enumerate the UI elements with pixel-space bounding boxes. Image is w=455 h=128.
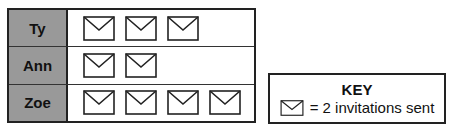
icons [68,85,254,121]
row-label: Ty [9,10,68,46]
envelope-icon [125,90,157,115]
row-ty: Ty [9,10,254,47]
envelope-icon [280,100,304,116]
key-text: = 2 invitations sent [310,99,435,116]
envelope-icon [83,16,115,41]
row-label: Ann [9,47,68,83]
key-box: KEY = 2 invitations sent [268,73,446,124]
envelope-icon [125,16,157,41]
envelope-icon [83,90,115,115]
icons [68,47,254,83]
row-zoe: Zoe [9,85,254,121]
envelope-icon [209,90,241,115]
row-ann: Ann [9,47,254,84]
key-line: = 2 invitations sent [270,99,444,116]
envelope-icon [125,53,157,78]
row-label: Zoe [9,85,68,121]
icons [68,10,254,46]
pictograph-table: Ty Ann Zoe [7,8,256,123]
envelope-icon [83,53,115,78]
envelope-icon [167,16,199,41]
envelope-icon [167,90,199,115]
key-title: KEY [270,81,444,98]
